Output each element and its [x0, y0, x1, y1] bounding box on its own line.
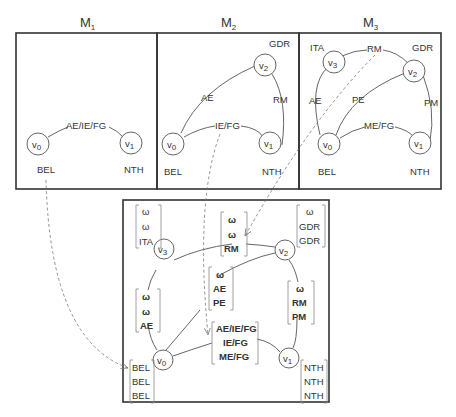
edge-v2-v1	[423, 75, 432, 141]
edge-label: PM	[424, 97, 438, 108]
panel-title-m2: M2	[221, 15, 237, 32]
edge-label: RM	[273, 94, 288, 105]
svg-text:NTH: NTH	[304, 362, 324, 373]
region-label: NTH	[124, 164, 144, 175]
edge-v3-v2	[342, 50, 367, 56]
svg-text:ω: ω	[228, 214, 236, 225]
region-label: NTH	[262, 166, 282, 177]
panel-m1: AE/IE/FG v0 v1 BEL NTH	[27, 120, 144, 175]
vector-v2: ω GDR GDR	[297, 205, 325, 247]
svg-text:GDR: GDR	[299, 235, 320, 246]
svg-text:ω: ω	[142, 206, 150, 217]
region-label: BEL	[37, 164, 55, 175]
svg-text:RM: RM	[224, 243, 239, 254]
edge-label: AE	[201, 92, 214, 103]
edge-label: ME/FG	[364, 120, 394, 131]
panel-m2: v0 v1 v2 AE RM IE/FG GDR BEL NTH	[162, 38, 290, 177]
vector-edge-v0-v1: AE/IE/FG IE/FG ME/FG	[212, 322, 258, 364]
edge-v0-v1-b	[395, 127, 414, 137]
svg-text:BEL: BEL	[132, 362, 150, 373]
svg-text:ω: ω	[142, 221, 150, 232]
edge-v0-v2-b	[218, 253, 275, 276]
region-label: NTH	[410, 166, 430, 177]
svg-text:ω: ω	[296, 283, 304, 294]
merge-diagram: M1 M2 M3 AE/IE/FG v0 v1 BEL NTH v0 v1 v2…	[0, 0, 456, 417]
svg-text:NTH: NTH	[304, 390, 324, 401]
svg-text:RM: RM	[292, 297, 307, 308]
panel-title-m1: M1	[80, 15, 96, 32]
edge-v2-v1	[289, 260, 298, 282]
edge-v2-v1-b	[293, 318, 297, 348]
edge-v3-v2-b	[246, 244, 275, 247]
edge-label: PE	[352, 94, 365, 105]
merged-graph: v0 v1 v2 v3 ω ω ITA ω GDR GDR BEL BEL BE…	[130, 205, 327, 403]
edge-label: RM	[367, 43, 382, 54]
vector-edge-v3-v2: ω ω RM	[221, 212, 247, 256]
edge-v0-v1	[173, 343, 212, 356]
region-label: ITA	[310, 42, 325, 53]
svg-text:GDR: GDR	[299, 221, 320, 232]
vector-v0: BEL BEL BEL	[130, 360, 154, 403]
edge-v0-v2	[166, 310, 200, 350]
edge-v0-v3	[148, 270, 156, 290]
region-label: GDR	[412, 42, 433, 53]
edge-v0-v1-b	[109, 127, 123, 137]
svg-text:PM: PM	[292, 311, 306, 322]
svg-text:BEL: BEL	[132, 376, 150, 387]
svg-text:BEL: BEL	[132, 390, 150, 401]
svg-text:ω: ω	[306, 206, 314, 217]
svg-text:AE/IE/FG: AE/IE/FG	[216, 323, 257, 334]
panel-title-m3: M3	[363, 15, 379, 32]
vector-v1: NTH NTH NTH	[301, 360, 327, 403]
edge-v0-v1-b	[257, 339, 280, 352]
svg-text:AE: AE	[213, 283, 226, 294]
edge-label: AE	[309, 95, 322, 106]
region-label: BEL	[318, 166, 336, 177]
svg-text:AE: AE	[140, 320, 153, 331]
svg-text:ω: ω	[228, 229, 236, 240]
region-label: BEL	[164, 166, 182, 177]
vector-edge-v0-v3: ω ω AE	[136, 289, 160, 332]
svg-text:PE: PE	[213, 297, 226, 308]
panel-m3: v0 v1 v2 v3 AE RM PE PM ME/FG ITA GDR BE…	[309, 42, 438, 177]
edge-v0-v1-b	[241, 126, 263, 137]
edge-v3-v2-b	[383, 50, 408, 63]
svg-text:ω: ω	[142, 306, 150, 317]
mapping-arrow-m1-bel	[46, 180, 128, 368]
vector-edge-v0-v2: ω AE PE	[209, 267, 233, 310]
svg-text:NTH: NTH	[304, 376, 324, 387]
region-label: GDR	[269, 38, 290, 49]
vector-edge-v2-v1: ω RM PM	[288, 281, 314, 324]
svg-text:IE/FG: IE/FG	[223, 337, 248, 348]
edge-v0-v1	[48, 127, 68, 137]
svg-text:ω: ω	[216, 269, 224, 280]
edge-v0-v1	[340, 127, 365, 138]
edge-label: IE/FG	[215, 120, 240, 131]
svg-text:ITA: ITA	[139, 236, 154, 247]
edge-v0-v1	[184, 126, 215, 137]
svg-text:ω: ω	[142, 291, 150, 302]
edge-label: AE/IE/FG	[66, 120, 106, 131]
svg-text:ME/FG: ME/FG	[219, 351, 249, 362]
